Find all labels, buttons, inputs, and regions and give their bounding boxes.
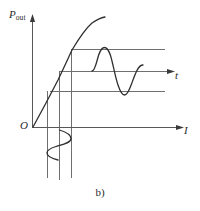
x-axis-time-label: t	[175, 70, 178, 81]
y-axis-arrow-icon	[30, 14, 35, 22]
origin-label: O	[20, 120, 28, 131]
axes-group	[30, 14, 184, 130]
transfer-characteristic-figure: Pout O I t b)	[0, 0, 200, 211]
x-axis-current-label: I	[184, 125, 188, 136]
figure-caption: b)	[0, 186, 200, 198]
x-axis-current-arrow-icon	[176, 125, 184, 130]
y-axis-label-subscript: out	[16, 13, 26, 22]
projection-lines	[48, 49, 169, 180]
figure-drawing	[0, 0, 200, 211]
y-axis-label: Pout	[9, 9, 26, 22]
x-axis-time-arrow-icon	[167, 69, 175, 74]
y-axis-label-main: P	[9, 8, 16, 20]
